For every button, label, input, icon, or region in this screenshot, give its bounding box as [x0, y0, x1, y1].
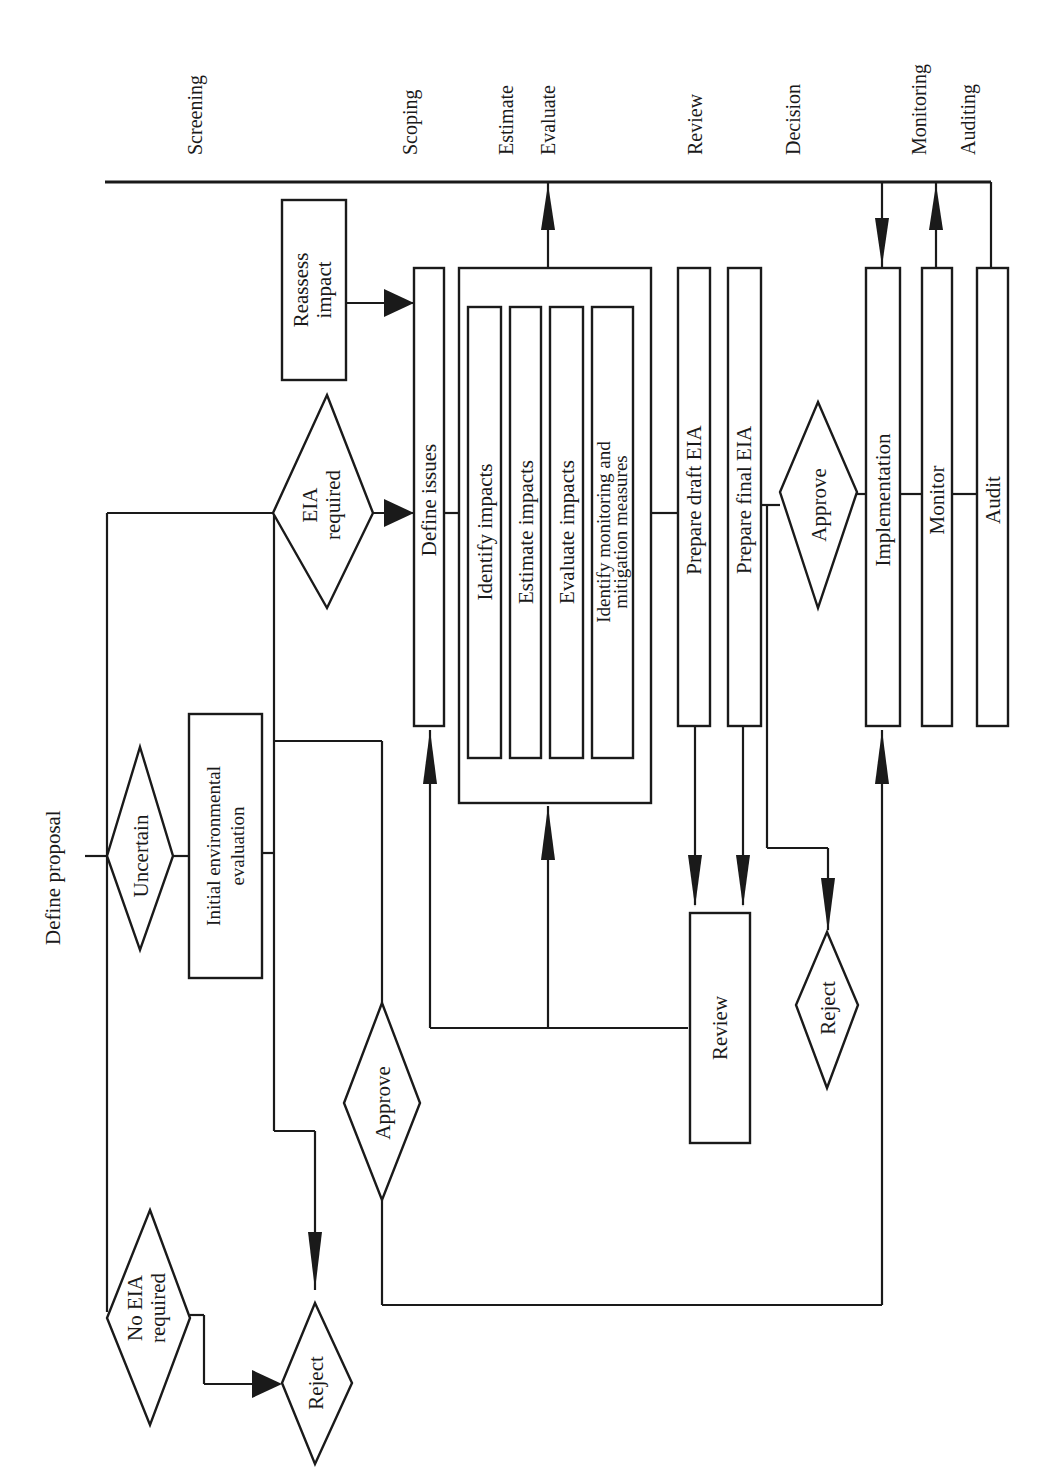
no-eia-line1: No EIA: [123, 1274, 147, 1341]
identify-impacts-label: Identify impacts: [473, 463, 497, 600]
arrow-right-icon: [252, 1370, 282, 1398]
iee-label-line2: evaluation: [227, 806, 248, 886]
iee-label-line1: Initial environmental: [203, 766, 224, 926]
approve-early-label: Approve: [371, 1066, 395, 1139]
arrow-down-icon: [688, 855, 702, 907]
arrow-down-icon: [308, 1232, 322, 1290]
implementation-label: Implementation: [871, 433, 895, 566]
estimate-impacts-label: Estimate impacts: [514, 460, 538, 604]
eia-process-flowchart: Screening Scoping Estimate Evaluate Revi…: [0, 0, 1053, 1483]
stage-decision: Decision: [782, 84, 804, 155]
uncertain-label: Uncertain: [129, 814, 153, 897]
eia-required-line2: required: [321, 470, 345, 540]
reassess-line2: impact: [312, 261, 336, 318]
define-proposal-label: Define proposal: [41, 810, 65, 945]
stage-monitoring: Monitoring: [908, 64, 931, 155]
stage-screening: Screening: [184, 75, 207, 155]
evaluate-impacts-label: Evaluate impacts: [555, 460, 579, 604]
arrow-down-icon: [875, 218, 889, 266]
reject-final-label: Reject: [816, 981, 840, 1035]
no-eia-line2: required: [146, 1273, 170, 1343]
approve-final-label: Approve: [807, 468, 831, 541]
prepare-draft-label: Prepare draft EIA: [682, 425, 706, 575]
stage-evaluate: Evaluate: [537, 85, 559, 155]
stage-auditing: Auditing: [957, 84, 980, 155]
define-issues-label: Define issues: [417, 444, 441, 557]
reject-screening-label: Reject: [304, 1356, 328, 1410]
stage-labels: Screening Scoping Estimate Evaluate Revi…: [184, 64, 980, 155]
stage-review: Review: [684, 93, 706, 155]
arrow-down-icon: [821, 878, 835, 932]
arrow-right-icon: [384, 289, 414, 317]
arrow-up-icon: [541, 184, 555, 230]
monitor-label: Monitor: [925, 466, 949, 535]
arrow-up-icon: [929, 184, 943, 230]
reassess-line1: Reassess: [289, 253, 313, 328]
prepare-final-label: Prepare final EIA: [732, 425, 756, 574]
stage-estimate: Estimate: [495, 85, 517, 155]
arrow-down-icon: [736, 855, 750, 907]
arrow-up-icon: [875, 730, 889, 784]
audit-label: Audit: [981, 476, 1005, 524]
identify-measures-line2: mitigation measures: [610, 455, 631, 609]
arrow-up-icon: [541, 806, 555, 860]
arrow-right-icon: [384, 499, 414, 527]
arrow-up-icon: [423, 730, 437, 784]
eia-required-line1: EIA: [298, 487, 322, 523]
stage-scoping: Scoping: [399, 89, 422, 155]
review-label: Review: [708, 995, 732, 1060]
process-initial-evaluation: [189, 714, 262, 978]
